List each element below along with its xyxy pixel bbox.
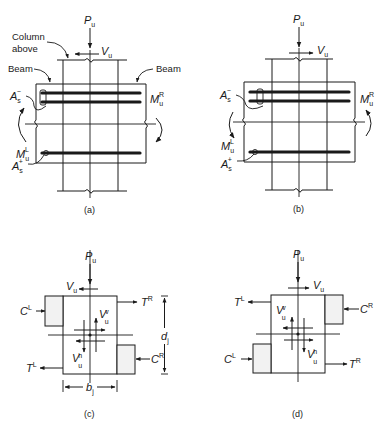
bottom-steel-label: As+	[11, 158, 23, 174]
moment-right-arrow	[156, 118, 162, 142]
tension-left-label: TL	[234, 295, 245, 308]
moment-right-label: MuR	[360, 91, 374, 107]
axial-load-label: Pu	[84, 14, 95, 28]
bottom-steel-label: As+	[220, 156, 232, 172]
axial-load-label: Pu	[85, 250, 96, 264]
moment-left-arrow	[18, 108, 26, 142]
joint-depth-label: dj	[161, 330, 169, 345]
caption-a: (a)	[84, 205, 95, 215]
column-shear-label: Vu	[317, 44, 328, 58]
comp-left-label: CL	[224, 352, 236, 365]
moment-right-label: MuR	[150, 91, 164, 107]
compression-block-left	[45, 296, 63, 326]
caption-c: (c)	[84, 409, 95, 419]
comp-left-label: CL	[20, 304, 32, 317]
top-steel-label: As−	[219, 87, 231, 103]
joint-shear-v-label: Vvu	[99, 308, 109, 325]
caption-d: (d)	[292, 409, 303, 419]
beam-right-leader	[137, 69, 153, 82]
joint-shear-v-label: Vvu	[276, 304, 286, 321]
column-above-leader	[47, 42, 68, 58]
panel-b: Pu Vu As− As+ MuL MuR (b)	[219, 13, 374, 214]
compression-block-right	[117, 345, 135, 374]
moment-left-label: MuL	[221, 138, 234, 154]
comp-right-label: CR	[151, 352, 164, 365]
top-steel-label: As−	[9, 88, 21, 104]
moment-right-arrow	[366, 110, 371, 136]
joint-shear-h-label: Vhu	[307, 348, 317, 365]
panel-d: Pu Vu TL CR CL TR Vvu Vhu (d)	[224, 248, 373, 419]
beam-right-label: Beam	[156, 63, 181, 74]
moment-left-arrow	[229, 112, 234, 138]
beam-column-joint-figure: Pu Vu Column above Beam Beam As− As+ MuL…	[0, 0, 386, 434]
compression-block-left	[253, 344, 271, 373]
axial-load-label: Pu	[293, 13, 304, 27]
tension-right-label: TR	[141, 295, 153, 308]
panel-c: Pu Vu CL TR TL CR Vvu Vhu	[20, 250, 169, 419]
tension-left-label: TL	[26, 361, 37, 374]
caption-b: (b)	[293, 204, 304, 214]
tension-right-label: TR	[349, 357, 361, 370]
panel-a: Pu Vu Column above Beam Beam As− As+ MuL…	[8, 14, 181, 215]
compression-block-right	[325, 295, 343, 324]
joint-width-label: bj	[86, 381, 94, 396]
column-outline	[265, 48, 333, 197]
beam-left-label: Beam	[8, 63, 33, 74]
beam-left-leader	[34, 69, 50, 82]
comp-right-label: CR	[360, 302, 373, 315]
moment-left-label: MuL	[16, 146, 29, 162]
axial-load-label: Pu	[293, 248, 304, 262]
bottom-steel-leader	[237, 154, 254, 161]
column-shear-label: Vu	[101, 45, 112, 59]
joint-shear-h-label: Vhu	[72, 352, 82, 369]
column-above-label: Column	[12, 31, 45, 42]
column-shear-label: Vu	[313, 279, 324, 293]
column-shear-label: Vu	[66, 280, 77, 294]
column-above-label-2: above	[12, 43, 38, 54]
